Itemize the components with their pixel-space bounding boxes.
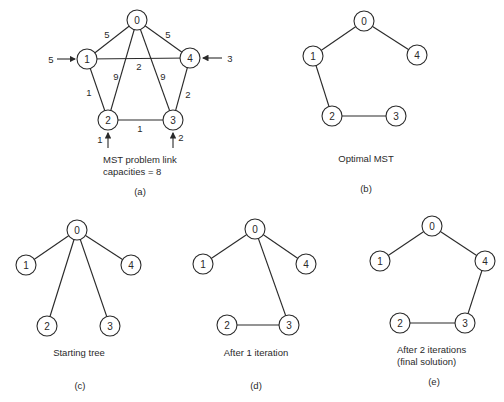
weight-2-3: 1 — [137, 123, 142, 134]
caption-a-line2: capacities = 8 — [103, 166, 161, 177]
svg-text:3: 3 — [286, 320, 292, 331]
node-4: 4 — [407, 45, 427, 65]
svg-text:2: 2 — [329, 111, 335, 122]
node-4: 4 — [296, 254, 316, 274]
node-2: 2 — [37, 316, 57, 336]
node-4: 4 — [121, 255, 141, 275]
caption-e-line1: After 2 iterations — [397, 344, 466, 355]
svg-text:4: 4 — [414, 50, 420, 61]
svg-text:2: 2 — [224, 320, 230, 331]
demand-node-2: 1 — [97, 134, 102, 145]
caption-b: Optimal MST — [338, 153, 394, 164]
svg-text:2: 2 — [397, 318, 403, 329]
svg-text:3: 3 — [107, 321, 113, 332]
node-3: 3 — [100, 316, 120, 336]
svg-text:1: 1 — [23, 260, 29, 271]
panel-label-d: (d) — [250, 380, 262, 391]
mst-figure: 5 5 2 9 9 1 1 2 5 3 1 2 0 1 2 3 4 MST pr… — [0, 0, 504, 402]
svg-text:1: 1 — [310, 51, 316, 62]
node-1: 1 — [303, 46, 323, 66]
caption-a-line1: MST problem link — [103, 154, 177, 165]
node-1: 1 — [16, 255, 36, 275]
node-2: 2 — [390, 313, 410, 333]
node-4: 4 — [475, 251, 495, 271]
node-3: 3 — [279, 315, 299, 335]
edge-0-2 — [47, 230, 77, 326]
node-1: 1 — [193, 254, 213, 274]
node-3: 3 — [386, 106, 406, 126]
caption-d: After 1 iteration — [224, 347, 288, 358]
svg-text:0: 0 — [252, 224, 258, 235]
weight-3-4: 2 — [185, 89, 190, 100]
panel-d: 0 1 2 3 4 After 1 iteration (d) — [193, 219, 316, 391]
svg-text:0: 0 — [429, 221, 435, 232]
node-1: 1 — [77, 49, 97, 69]
weight-0-3: 9 — [160, 71, 165, 82]
weight-0-2: 9 — [113, 71, 118, 82]
svg-text:0: 0 — [134, 15, 140, 26]
weight-1-2: 1 — [86, 87, 91, 98]
node-1: 1 — [370, 251, 390, 271]
svg-text:1: 1 — [377, 256, 383, 267]
panel-label-a: (a) — [134, 186, 146, 197]
node-0: 0 — [127, 10, 147, 30]
edge-0-3 — [255, 229, 289, 325]
caption-c: Starting tree — [53, 347, 105, 358]
node-4: 4 — [180, 48, 200, 68]
edge-1-4 — [87, 58, 190, 59]
panel-label-e: (e) — [428, 376, 440, 387]
svg-text:3: 3 — [393, 111, 399, 122]
svg-text:3: 3 — [462, 318, 468, 329]
edge-0-2 — [108, 20, 137, 120]
weight-1-4: 2 — [136, 61, 141, 72]
demand-node-1: 5 — [48, 54, 53, 65]
demand-node-4: 3 — [227, 53, 232, 64]
svg-text:1: 1 — [200, 259, 206, 270]
svg-text:0: 0 — [361, 16, 367, 27]
svg-text:4: 4 — [187, 53, 193, 64]
svg-text:2: 2 — [44, 321, 50, 332]
panel-label-b: (b) — [360, 183, 372, 194]
panel-b: 0 1 2 3 4 Optimal MST (b) — [303, 11, 427, 194]
svg-text:4: 4 — [482, 256, 488, 267]
svg-text:4: 4 — [128, 260, 134, 271]
panel-c: 0 1 2 3 4 Starting tree (c) — [16, 220, 141, 391]
node-2: 2 — [322, 106, 342, 126]
svg-text:1: 1 — [84, 54, 90, 65]
caption-e-line2: (final solution) — [397, 356, 456, 367]
node-2: 2 — [217, 315, 237, 335]
svg-text:3: 3 — [170, 115, 176, 126]
weight-0-1: 5 — [104, 29, 109, 40]
node-3: 3 — [163, 110, 183, 130]
edge-0-3 — [77, 230, 110, 326]
svg-text:2: 2 — [105, 115, 111, 126]
panel-e: 0 1 2 3 4 After 2 iterations (final solu… — [370, 216, 495, 387]
node-0: 0 — [354, 11, 374, 31]
node-0: 0 — [245, 219, 265, 239]
node-3: 3 — [455, 313, 475, 333]
svg-text:4: 4 — [303, 259, 309, 270]
weight-0-4: 5 — [165, 29, 170, 40]
demand-node-3: 2 — [178, 132, 183, 143]
panel-a: 5 5 2 9 9 1 1 2 5 3 1 2 0 1 2 3 4 MST pr… — [48, 10, 232, 197]
node-0: 0 — [67, 220, 87, 240]
panel-label-c: (c) — [74, 380, 85, 391]
node-2: 2 — [98, 110, 118, 130]
svg-text:0: 0 — [74, 225, 80, 236]
node-0: 0 — [422, 216, 442, 236]
